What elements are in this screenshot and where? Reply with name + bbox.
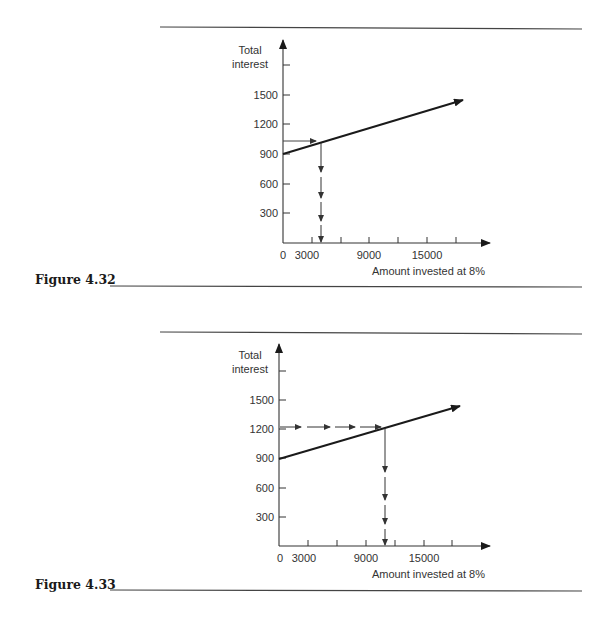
- top-rule: [160, 332, 582, 334]
- interest-line: [283, 100, 463, 154]
- figure-4-32: Total interest 1500 1200 900 600 300 0 3…: [35, 27, 582, 287]
- figure-caption: Figure 4.33: [35, 577, 116, 592]
- y-tick-label: 1500: [254, 89, 278, 101]
- bottom-rule: [110, 286, 582, 287]
- x-tick-label: 9000: [357, 249, 381, 261]
- y-axis-label-line2: interest: [232, 363, 268, 375]
- x-ticks: [308, 540, 452, 546]
- x-tick-label: 15000: [409, 552, 440, 564]
- y-tick-label: 1200: [250, 423, 274, 435]
- figure-4-33: Total interest 1500 1200 900 600 300 0 3…: [35, 332, 582, 592]
- y-tick-label: 300: [256, 511, 274, 523]
- x-axis-label: Amount invested at 8%: [372, 265, 485, 277]
- bottom-rule: [110, 590, 582, 591]
- interest-line: [279, 406, 460, 459]
- x-tick-label: 0: [280, 249, 286, 261]
- y-axis-label-line1: Total: [238, 44, 261, 56]
- x-tick-label: 9000: [354, 552, 378, 564]
- y-tick-label: 1200: [254, 118, 278, 130]
- y-tick-label: 300: [260, 207, 278, 219]
- y-tick-label: 600: [256, 482, 274, 494]
- y-tick-label: 900: [256, 452, 274, 464]
- figure-page: Total interest 1500 1200 900 600 300 0 3…: [0, 0, 613, 618]
- y-tick-label: 1500: [250, 394, 274, 406]
- y-axis-label-line1: Total: [238, 349, 261, 361]
- y-ticks: [283, 65, 290, 213]
- top-rule: [160, 27, 582, 29]
- y-axis-label-line2: interest: [232, 58, 268, 70]
- y-ticks: [279, 371, 286, 517]
- figure-caption: Figure 4.32: [35, 272, 116, 287]
- y-tick-label: 600: [260, 178, 278, 190]
- x-axis-label: Amount invested at 8%: [372, 568, 485, 580]
- x-tick-label: 3000: [295, 249, 319, 261]
- x-tick-label: 15000: [412, 249, 443, 261]
- x-ticks: [312, 237, 456, 243]
- x-tick-label: 0: [277, 552, 283, 564]
- x-tick-label: 3000: [292, 552, 316, 564]
- y-tick-label: 900: [260, 148, 278, 160]
